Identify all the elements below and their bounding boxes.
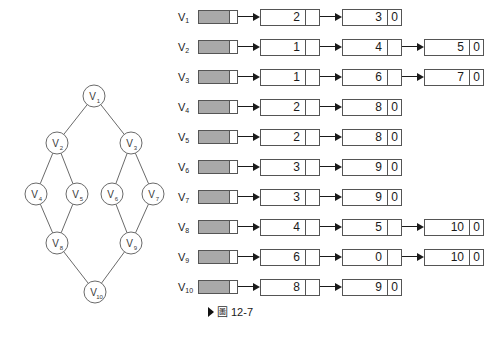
- graph-edge-v2-v5: [61, 153, 73, 184]
- adjacency-node-value: 4: [343, 40, 387, 55]
- graph-node-v10[interactable]: V10: [84, 281, 106, 303]
- adjacency-pointer-arrow-icon: [320, 192, 342, 202]
- adjacency-node-pointer: [305, 100, 319, 115]
- adjacency-node-value: 10: [425, 250, 469, 265]
- adjacency-pointer-arrow-icon: [238, 282, 260, 292]
- vertex-subscript: 8: [185, 227, 189, 234]
- adjacency-node-value: 5: [343, 220, 387, 235]
- adjacency-header-node: [198, 220, 238, 234]
- adjacency-node-null-pointer: 0: [469, 220, 483, 235]
- vertex-subscript: 10: [185, 287, 193, 294]
- adjacency-pointer-arrow-icon: [320, 222, 342, 232]
- adjacency-row-vertex-label: V10: [178, 281, 198, 293]
- arrow-head: [335, 103, 342, 111]
- adjacency-node-null-pointer: 0: [387, 280, 401, 295]
- graph-edge-v7-v9: [136, 204, 149, 233]
- graph-node-v2[interactable]: V2: [46, 132, 68, 154]
- adjacency-pointer-arrow-icon: [238, 72, 260, 82]
- graph-node-label: V: [89, 91, 96, 102]
- adjacency-header-node: [198, 100, 238, 114]
- graph-node-v8[interactable]: V8: [46, 232, 68, 254]
- adjacency-list-panel: V1230V21450V31670V4280V5280V6390V7390V84…: [178, 6, 452, 316]
- graph-node-v5[interactable]: V5: [66, 183, 88, 205]
- adjacency-pointer-arrow-icon: [320, 132, 342, 142]
- adjacency-row: V5280: [178, 126, 402, 148]
- adjacency-list-node: 2: [260, 9, 320, 26]
- adjacency-header-data-cell: [199, 131, 229, 143]
- adjacency-node-value: 3: [261, 190, 305, 205]
- adjacency-header-data-cell: [199, 221, 229, 233]
- adjacency-pointer-arrow-icon: [238, 132, 260, 142]
- adjacency-node-value: 3: [343, 10, 387, 25]
- graph-node-v4[interactable]: V4: [25, 183, 47, 205]
- arrow-head: [253, 283, 260, 291]
- adjacency-list-node: 8: [260, 279, 320, 296]
- graph-node-label: V: [52, 138, 59, 149]
- graph-node-v3[interactable]: V3: [120, 132, 142, 154]
- adjacency-header-link-cell: [229, 71, 237, 83]
- caption-number: 12-7: [231, 306, 253, 318]
- adjacency-pointer-arrow-icon: [238, 222, 260, 232]
- adjacency-pointer-arrow-icon: [402, 252, 424, 262]
- adjacency-list-node: 3: [260, 159, 320, 176]
- vertex-subscript: 1: [185, 17, 189, 24]
- adjacency-row: V845100: [178, 216, 484, 238]
- adjacency-row-vertex-label: V2: [178, 41, 198, 53]
- adjacency-node-pointer: [387, 220, 401, 235]
- adjacency-node-value: 8: [261, 280, 305, 295]
- adjacency-row: V6390: [178, 156, 402, 178]
- adjacency-node-pointer: [305, 280, 319, 295]
- adjacency-node-null-pointer: 0: [387, 190, 401, 205]
- adjacency-node-null-pointer: 0: [469, 250, 483, 265]
- graph-node-v1[interactable]: V1: [83, 85, 105, 107]
- arrow-head: [253, 73, 260, 81]
- adjacency-pointer-arrow-icon: [402, 42, 424, 52]
- graph-node-v9[interactable]: V9: [120, 232, 142, 254]
- graph-node-v7[interactable]: V7: [142, 183, 164, 205]
- adjacency-node-pointer: [387, 40, 401, 55]
- arrow-head: [335, 133, 342, 141]
- adjacency-list-node: 1: [260, 69, 320, 86]
- graph-edge-v6-v9: [116, 204, 127, 232]
- adjacency-node-value: 9: [343, 160, 387, 175]
- vertex-subscript: 2: [185, 47, 189, 54]
- adjacency-node-pointer: [387, 250, 401, 265]
- adjacency-header-data-cell: [199, 101, 229, 113]
- adjacency-pointer-arrow-icon: [320, 252, 342, 262]
- adjacency-header-node: [198, 280, 238, 294]
- adjacency-list-node: 1: [260, 39, 320, 56]
- adjacency-node-value: 4: [261, 220, 305, 235]
- graph-panel: V1V2V3V4V5V6V7V8V9V10: [0, 0, 196, 344]
- adjacency-node-value: 10: [425, 220, 469, 235]
- adjacency-pointer-arrow-icon: [320, 42, 342, 52]
- adjacency-node-null-pointer: 0: [387, 100, 401, 115]
- adjacency-pointer-arrow-icon: [238, 252, 260, 262]
- adjacency-pointer-arrow-icon: [238, 42, 260, 52]
- adjacency-header-data-cell: [199, 71, 229, 83]
- adjacency-header-link-cell: [229, 101, 237, 113]
- adjacency-row: V21450: [178, 36, 484, 58]
- arrow-head: [253, 253, 260, 261]
- adjacency-pointer-arrow-icon: [238, 12, 260, 22]
- adjacency-header-data-cell: [199, 191, 229, 203]
- adjacency-header-node: [198, 130, 238, 144]
- adjacency-list-node: 100: [424, 219, 484, 236]
- graph-node-label: V: [107, 189, 114, 200]
- graph-node-v6[interactable]: V6: [101, 183, 123, 205]
- adjacency-node-pointer: [305, 160, 319, 175]
- arrow-head: [335, 223, 342, 231]
- adjacency-node-null-pointer: 0: [387, 130, 401, 145]
- adjacency-node-value: 5: [425, 40, 469, 55]
- adjacency-node-pointer: [305, 220, 319, 235]
- adjacency-node-value: 2: [261, 100, 305, 115]
- arrow-head: [253, 133, 260, 141]
- adjacency-list-node: 4: [342, 39, 402, 56]
- adjacency-pointer-arrow-icon: [320, 102, 342, 112]
- adjacency-header-data-cell: [199, 281, 229, 293]
- adjacency-node-value: 9: [343, 190, 387, 205]
- adjacency-list-node: 80: [342, 99, 402, 116]
- adjacency-pointer-arrow-icon: [320, 282, 342, 292]
- adjacency-pointer-arrow-icon: [320, 162, 342, 172]
- graph-edge-v8-v10: [64, 252, 89, 284]
